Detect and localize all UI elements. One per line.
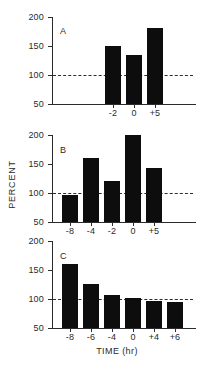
panel-c-bar-5 <box>146 301 162 328</box>
panel-c-bar-6 <box>167 302 183 328</box>
panel-c-ytick-label-50: 50 <box>18 324 44 333</box>
panel-c-bar-3 <box>104 295 120 328</box>
panel-c-xtick-label-4: 0 <box>122 333 144 342</box>
panel-c-xtick-label-5: +4 <box>143 333 165 342</box>
panel-c-ytick-50 <box>48 328 52 329</box>
panel-c-label: C <box>60 252 67 261</box>
panel-c: C 200 150 100 50 -8 -6 -4 0 +4 +6 TIME (… <box>0 0 211 372</box>
panel-c-bar-4 <box>125 298 141 328</box>
panel-c-ytick-100 <box>48 299 52 300</box>
panel-c-ytick-150 <box>48 270 52 271</box>
x-axis-title-time: TIME (hr) <box>72 347 162 356</box>
figure-bar-chart-panels: A 200 150 100 50 -2 0 +5 PERCENT B <box>0 0 211 372</box>
panel-c-ytick-label-200: 200 <box>18 237 44 246</box>
panel-c-xtick-label-2: -6 <box>80 333 102 342</box>
panel-c-bar-2 <box>83 284 99 328</box>
panel-c-xtick-label-3: -4 <box>101 333 123 342</box>
panel-c-y-axis <box>52 241 53 328</box>
panel-c-bar-1 <box>62 264 78 328</box>
panel-c-ytick-label-100: 100 <box>18 295 44 304</box>
panel-c-ytick-label-150: 150 <box>18 266 44 275</box>
panel-c-xtick-label-6: +6 <box>164 333 186 342</box>
panel-c-ytick-200 <box>48 241 52 242</box>
panel-c-xtick-label-1: -8 <box>59 333 81 342</box>
